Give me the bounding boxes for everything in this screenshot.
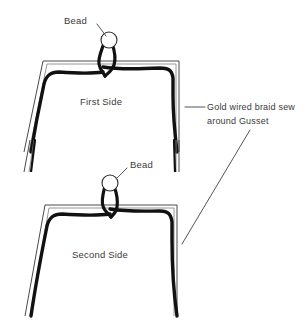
braid-callout-line2: around Gusset xyxy=(207,116,269,126)
second-side-mask-lower xyxy=(0,172,308,326)
first-side-braid xyxy=(103,67,177,152)
first-side-label: First Side xyxy=(80,96,122,107)
bead-bottom-icon xyxy=(102,175,118,191)
diagram-canvas: Bead First Side xyxy=(0,0,308,326)
first-side-braid-left xyxy=(31,72,103,152)
second-side-group: Bead Second Side xyxy=(0,140,308,326)
first-side-leg-right-braid xyxy=(174,140,175,172)
purse-frame-diagram: Bead First Side xyxy=(0,0,308,326)
first-side-group: Bead First Side xyxy=(24,15,179,152)
bead-top-label: Bead xyxy=(64,15,87,26)
bead-top-icon xyxy=(101,32,117,48)
second-side-label: Second Side xyxy=(72,249,128,260)
first-side-gusset-inner-outline xyxy=(29,64,176,152)
braid-callout-line1: Gold wired braid sew xyxy=(207,102,295,112)
bead-bottom-label: Bead xyxy=(130,159,153,170)
bead-top-leader-line xyxy=(97,24,106,36)
